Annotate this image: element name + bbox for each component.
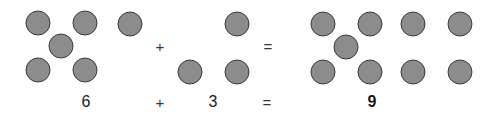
dot	[225, 60, 250, 85]
sum-number: 9	[368, 94, 377, 110]
dot	[401, 60, 426, 85]
dot	[311, 60, 336, 85]
dot	[358, 60, 383, 85]
dot	[49, 34, 74, 59]
dot	[401, 12, 426, 37]
dot	[448, 12, 473, 37]
addend1-number: 6	[82, 94, 91, 110]
dot	[73, 11, 98, 36]
dot	[178, 60, 203, 85]
plus-sign: +	[156, 95, 165, 110]
dot	[334, 35, 359, 60]
plus-sign-visual: +	[156, 39, 165, 54]
dot	[26, 11, 51, 36]
dot	[26, 58, 51, 83]
dot	[73, 58, 98, 83]
addend2-number: 3	[209, 94, 218, 110]
dot	[311, 12, 336, 37]
dot	[448, 60, 473, 85]
equals-sign-visual: =	[264, 39, 273, 54]
dot	[358, 12, 383, 37]
dot	[225, 12, 250, 37]
equals-sign: =	[263, 95, 272, 110]
dot	[118, 12, 143, 37]
